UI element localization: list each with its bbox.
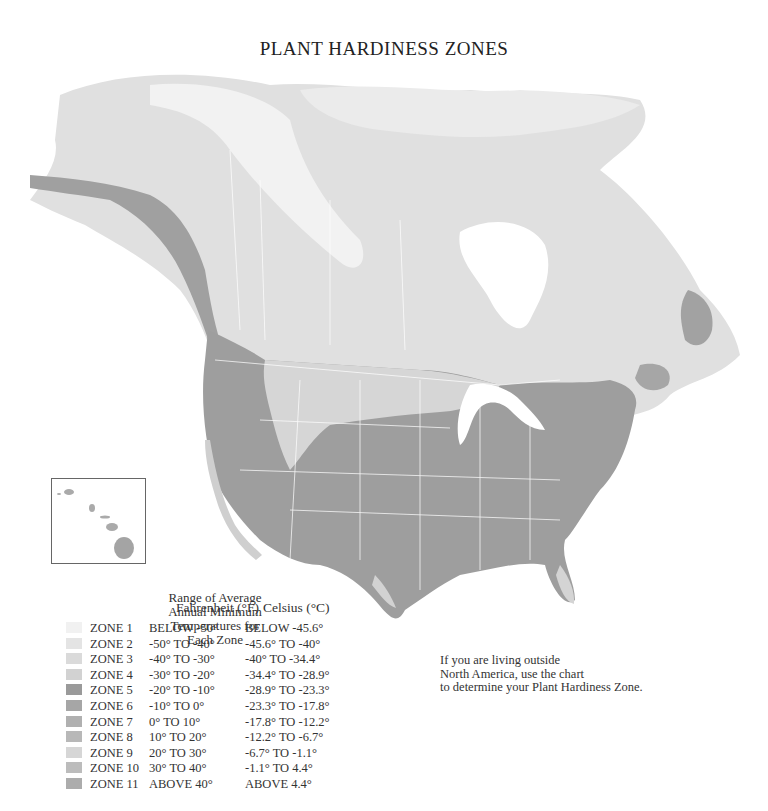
celsius-range: -34.4° TO -28.9° [245, 668, 330, 683]
fahrenheit-range: 30° TO 40° [149, 761, 206, 776]
zone-swatch [66, 622, 82, 633]
zone-swatch [66, 716, 82, 727]
celsius-range: -40° TO -34.4° [245, 652, 320, 667]
fahrenheit-range: 10° TO 20° [149, 730, 206, 745]
fahrenheit-header: Fahrenheit (°F) [176, 600, 259, 615]
zone-swatch [66, 762, 82, 773]
legend-row: ZONE 4-30° TO -20°-34.4° TO -28.9° [66, 668, 366, 682]
zone-swatch [66, 669, 82, 680]
zone-swatch [66, 778, 82, 789]
celsius-range: BELOW -45.6° [245, 621, 323, 636]
legend-header: Fahrenheit (°F)Celsius (°C) [176, 600, 334, 616]
fahrenheit-range: BELOW -50° [149, 621, 218, 636]
hawaii-inset [51, 478, 146, 564]
celsius-range: -28.9° TO -23.3° [245, 683, 330, 698]
hawaii-islands [52, 479, 145, 563]
note-line: If you are living outside [440, 654, 643, 668]
zone-label: ZONE 7 [90, 715, 133, 730]
fahrenheit-range: -40° TO -30° [149, 652, 215, 667]
celsius-range: -12.2° TO -6.7° [245, 730, 323, 745]
legend-row: ZONE 2-50° TO -40°-45.6° TO -40° [66, 637, 366, 651]
legend-row: ZONE 3-40° TO -30°-40° TO -34.4° [66, 652, 366, 666]
legend-row: ZONE 1BELOW -50°BELOW -45.6° [66, 621, 366, 635]
celsius-range: ABOVE 4.4° [245, 777, 312, 792]
zone-swatch [66, 731, 82, 742]
note-line: to determine your Plant Hardiness Zone. [440, 681, 643, 695]
zone-swatch [66, 684, 82, 695]
zone-swatch [66, 653, 82, 664]
legend-row: ZONE 1030° TO 40°-1.1° TO 4.4° [66, 761, 366, 775]
celsius-range: -23.3° TO -17.8° [245, 699, 330, 714]
fahrenheit-range: ABOVE 40° [149, 777, 213, 792]
zone-label: ZONE 5 [90, 683, 133, 698]
legend-row: ZONE 70° TO 10°-17.8° TO -12.2° [66, 715, 366, 729]
zone-swatch [66, 700, 82, 711]
celsius-range: -17.8° TO -12.2° [245, 715, 330, 730]
fahrenheit-range: -10° TO 0° [149, 699, 204, 714]
zone-swatch [66, 638, 82, 649]
zone-label: ZONE 4 [90, 668, 133, 683]
outside-na-note: If you are living outside North America,… [440, 654, 643, 695]
zone-swatch [66, 747, 82, 758]
zone-label: ZONE 2 [90, 637, 133, 652]
zone-label: ZONE 1 [90, 621, 133, 636]
zone-label: ZONE 9 [90, 746, 133, 761]
celsius-range: -1.1° TO 4.4° [245, 761, 313, 776]
zone-label: ZONE 3 [90, 652, 133, 667]
legend-row: ZONE 6-10° TO 0°-23.3° TO -17.8° [66, 699, 366, 713]
zone-label: ZONE 8 [90, 730, 133, 745]
celsius-header: Celsius (°C) [263, 600, 330, 615]
fahrenheit-range: -50° TO -40° [149, 637, 215, 652]
legend-row: ZONE 11ABOVE 40°ABOVE 4.4° [66, 777, 366, 791]
fahrenheit-range: -20° TO -10° [149, 683, 215, 698]
legend-row: ZONE 5-20° TO -10°-28.9° TO -23.3° [66, 683, 366, 697]
zone-label: ZONE 6 [90, 699, 133, 714]
fahrenheit-range: -30° TO -20° [149, 668, 215, 683]
celsius-range: -6.7° TO -1.1° [245, 746, 317, 761]
legend-row: ZONE 920° TO 30°-6.7° TO -1.1° [66, 746, 366, 760]
fahrenheit-range: 20° TO 30° [149, 746, 206, 761]
note-line: North America, use the chart [440, 668, 643, 682]
zone-label: ZONE 10 [90, 761, 139, 776]
celsius-range: -45.6° TO -40° [245, 637, 320, 652]
zone-label: ZONE 11 [90, 777, 139, 792]
legend-row: ZONE 810° TO 20°-12.2° TO -6.7° [66, 730, 366, 744]
fahrenheit-range: 0° TO 10° [149, 715, 200, 730]
